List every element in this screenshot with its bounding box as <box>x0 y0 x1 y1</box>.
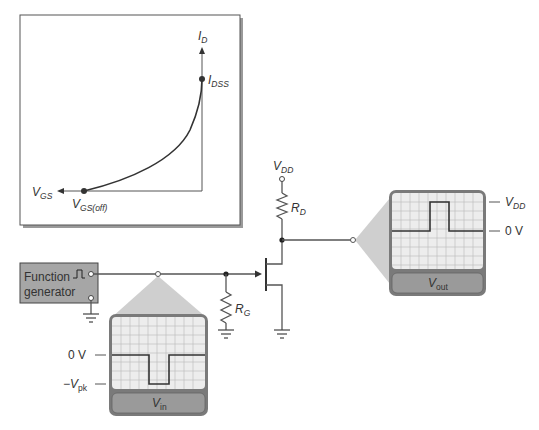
jfet-transistor <box>266 241 282 330</box>
transfer-curve-graph: ID IDSS VGS VGS(off) <box>20 15 243 228</box>
ground-icon <box>274 330 290 338</box>
zero-level-label-out: 0 V <box>505 224 523 238</box>
ground-icon <box>83 314 99 322</box>
ground-terminal <box>89 296 94 301</box>
vgs-off-point <box>81 188 87 194</box>
graph-frame <box>20 15 240 225</box>
output-probe-point[interactable] <box>351 238 356 243</box>
output-terminal <box>89 272 94 277</box>
input-probe-point[interactable] <box>156 272 161 277</box>
zero-level-label-in: 0 V <box>68 348 86 362</box>
rd-label: RD <box>291 201 306 217</box>
vdd-label: VDD <box>273 159 293 175</box>
circuit-diagram: ID IDSS VGS VGS(off) Function generator … <box>0 0 539 430</box>
resistor-rg <box>221 292 231 323</box>
generator-label-line2: generator <box>24 285 75 299</box>
output-probe-cone <box>355 198 390 284</box>
rg-label: RG <box>235 302 251 318</box>
function-generator[interactable]: Function generator <box>20 263 99 322</box>
ground-icon <box>218 330 234 338</box>
resistor-rd <box>277 193 287 219</box>
generator-label-line1: Function <box>24 270 70 284</box>
output-oscilloscope: Vout <box>389 190 486 296</box>
input-oscilloscope: Vin <box>109 314 208 416</box>
gate-arrow-icon <box>255 271 262 278</box>
vpk-level-label: −Vpk <box>63 377 88 393</box>
idss-point <box>199 76 205 82</box>
input-probe-cone <box>111 276 207 318</box>
vdd-terminal <box>280 177 285 182</box>
vdd-level-label: VDD <box>505 195 525 211</box>
